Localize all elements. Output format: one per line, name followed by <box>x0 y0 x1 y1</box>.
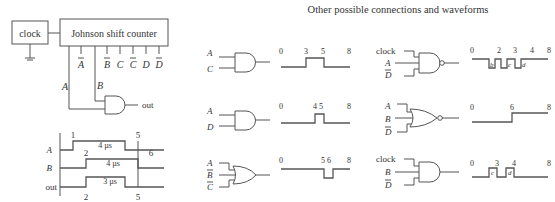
tick-label: 0 <box>470 159 474 168</box>
pulse-label: c <box>508 61 512 69</box>
tick-label: 6 <box>510 103 514 112</box>
and-gate-icon <box>419 162 440 182</box>
timing-label-out: out <box>45 182 57 192</box>
width-label-b: 4 µs <box>106 159 120 168</box>
pulse-label: b <box>490 61 494 69</box>
clock-block: clock <box>12 21 48 44</box>
and-gate-icon <box>235 111 256 130</box>
tick-label: 8 <box>547 159 551 168</box>
wire-a-label: A <box>61 81 69 92</box>
and-gate-icon <box>235 53 256 72</box>
waveform <box>281 114 350 123</box>
pulse-label: d <box>508 169 512 177</box>
tick-label: 8 <box>347 102 351 111</box>
tick-label: 3 <box>495 159 499 168</box>
tick-label: 4 5 <box>313 102 323 111</box>
input-label: D <box>384 70 392 80</box>
waveform <box>281 58 350 67</box>
wire-b <box>95 46 105 101</box>
tick-label: 3 <box>304 47 308 56</box>
tick-a-rise: 1 <box>71 130 76 140</box>
diagram-canvas: clock Johnson shift counter A B C C D D … <box>0 0 555 202</box>
example-or-a-bbar-cbar: A B C 0 5 6 8 <box>206 156 351 192</box>
input-label: A <box>206 48 213 58</box>
tick-label: 3 <box>513 46 517 55</box>
or-gate-icon <box>233 166 256 184</box>
output-label-d-bar: D <box>154 59 163 70</box>
input-label: A <box>206 158 213 168</box>
ground-icon <box>25 44 35 60</box>
pulse-label: c <box>491 169 495 177</box>
input-label: C <box>207 182 214 192</box>
tick-label: 0 <box>470 46 474 55</box>
input-label: B <box>385 167 391 177</box>
pulse-label: d <box>522 61 526 69</box>
tick-label: 0 <box>279 102 283 111</box>
counter-output-pins <box>81 46 159 54</box>
tick-label: 8 <box>547 103 551 112</box>
input-label: D <box>206 122 214 132</box>
tick-a-fall: 5 <box>136 130 141 140</box>
clock-label: clock <box>19 28 41 39</box>
wire-b-label: B <box>97 80 103 91</box>
tick-b-fall: 6 <box>149 148 154 158</box>
tick-label: 5 <box>321 47 325 56</box>
input-label: A <box>384 58 391 68</box>
output-label-c: C <box>117 59 124 70</box>
and-gate-icon <box>105 96 125 114</box>
tick-label: 5 6 <box>321 156 331 165</box>
timing-label-b: B <box>47 163 53 173</box>
input-label: C <box>207 64 214 74</box>
counter-label: Johnson shift counter <box>71 28 157 39</box>
tick-label: 8 <box>347 47 351 56</box>
width-label-a: 4 µs <box>98 141 112 150</box>
waveform <box>281 169 350 178</box>
example-and-a-d: A D 0 4 5 8 <box>206 102 351 132</box>
nor-gate-icon <box>410 109 437 127</box>
input-label: A <box>384 101 391 111</box>
tick-b-rise: 2 <box>84 148 89 158</box>
input-label: clock <box>376 154 396 164</box>
output-label-c-bar: C <box>130 59 137 70</box>
tick-label: 4 <box>512 159 516 168</box>
input-label: B <box>385 114 391 124</box>
timing-label-a: A <box>46 145 53 155</box>
tick-label: 4 <box>530 46 534 55</box>
width-label-out: 3 µs <box>103 177 117 186</box>
tick-out-rise: 2 <box>84 192 89 202</box>
nand-gate-icon <box>419 53 440 73</box>
output-label-b-bar: B <box>104 59 110 70</box>
tick-label: 0 <box>470 103 474 112</box>
tick-label: 0 <box>279 47 283 56</box>
tick-label: 0 <box>279 156 283 165</box>
input-label: B <box>207 170 213 180</box>
output-label-d: D <box>141 59 150 70</box>
input-label: A <box>206 106 213 116</box>
waveform <box>472 113 548 122</box>
input-label: clock <box>376 46 396 56</box>
output-label-a-bar: A <box>77 59 85 70</box>
example-nor-a-b-dbar: A B D 0 6 8 <box>384 101 551 137</box>
input-label: D <box>384 127 392 137</box>
example-nand-clock-a-dbar: clock A D 0 2 3 4 8 b c d <box>376 46 551 80</box>
tick-out-fall: 5 <box>136 192 141 202</box>
other-title: Other possible connections and waveforms <box>308 4 489 15</box>
tick-label: 8 <box>547 46 551 55</box>
wire-a <box>69 46 105 109</box>
input-label: D <box>384 180 392 190</box>
tick-label: 2 <box>497 46 501 55</box>
counter-output-labels: A B C C D D <box>77 58 163 70</box>
example-and-a-c: A C 0 3 5 8 <box>206 47 351 74</box>
tick-label: 8 <box>347 156 351 165</box>
out-label: out <box>142 100 154 110</box>
johnson-counter-block: Johnson shift counter <box>60 19 168 46</box>
example-and-clock-b-dbar: clock B D 0 3 4 8 c d <box>376 154 551 190</box>
